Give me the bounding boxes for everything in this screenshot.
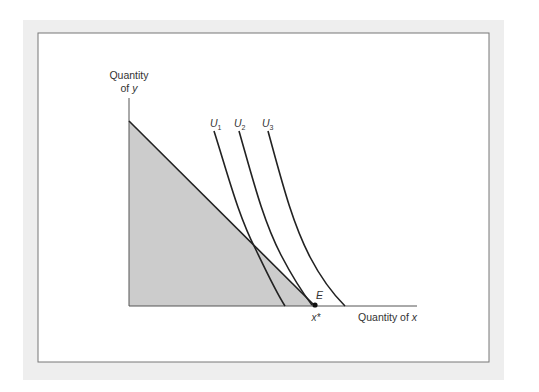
y-axis-label-line2: of y bbox=[121, 82, 139, 94]
inner-panel bbox=[38, 33, 489, 362]
equilibrium-label: E bbox=[316, 289, 324, 301]
equilibrium-point bbox=[312, 302, 317, 307]
x-axis-label: Quantity of x bbox=[358, 311, 418, 323]
x-star-label: x* bbox=[311, 312, 322, 323]
figure-canvas: Quantity of y Quantity of x E x* U1 U2 U… bbox=[0, 0, 539, 392]
y-axis-label-line1: Quantity bbox=[109, 69, 149, 81]
